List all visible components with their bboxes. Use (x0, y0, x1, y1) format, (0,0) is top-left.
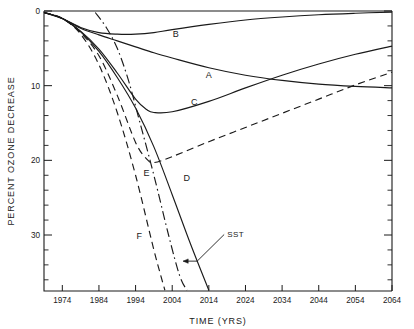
curve-label-f: F (136, 231, 142, 241)
ozone-decrease-chart: 1974198419942004201420242034204420542064… (0, 0, 414, 329)
x-tick-label: 2004 (163, 296, 182, 305)
x-axis-title: TIME (YRS) (189, 316, 247, 326)
curve-annotations: ABCDEFSST (136, 29, 244, 263)
curve-f (44, 12, 165, 290)
y-tick-label: 10 (31, 82, 41, 91)
curve-label-a: A (206, 70, 212, 80)
y-tick-label: 0 (35, 7, 40, 16)
x-tick-label: 1984 (90, 296, 109, 305)
axis-frame (44, 11, 392, 291)
x-axis-tick-labels: 1974198419942004201420242034204420542064 (53, 296, 401, 305)
x-tick-label: 1994 (126, 296, 145, 305)
y-axis-ticks (44, 11, 392, 280)
data-curves (44, 12, 392, 290)
y-axis-title: PERCENT OZONE DECREASE (6, 76, 16, 225)
x-tick-label: 2064 (383, 296, 402, 305)
chart-canvas: 1974198419942004201420242034204420542064… (0, 0, 414, 329)
y-tick-label: 20 (31, 156, 41, 165)
x-tick-label: 2024 (236, 296, 255, 305)
curve-label-c: C (191, 97, 198, 107)
sst-arrow-head (183, 259, 188, 263)
curve-d (44, 12, 209, 290)
curve-label-e: E (144, 168, 150, 178)
y-tick-label: 30 (31, 231, 41, 240)
x-tick-label: 1974 (53, 296, 72, 305)
sst-leader-line (183, 235, 224, 262)
x-tick-label: 2014 (200, 296, 219, 305)
x-tick-label: 2054 (346, 296, 365, 305)
x-axis-ticks (62, 285, 392, 291)
x-tick-label: 2034 (273, 296, 292, 305)
y-axis-tick-labels: 0102030 (31, 7, 41, 240)
curve-label-d: D (184, 173, 191, 183)
curve-b (44, 12, 392, 34)
curve-c (44, 12, 392, 113)
x-tick-label: 2044 (310, 296, 329, 305)
curve-label-b: B (173, 29, 179, 39)
curve-e (44, 12, 392, 162)
curve-label-sst: SST (227, 230, 244, 239)
axes: 1974198419942004201420242034204420542064… (31, 7, 402, 305)
